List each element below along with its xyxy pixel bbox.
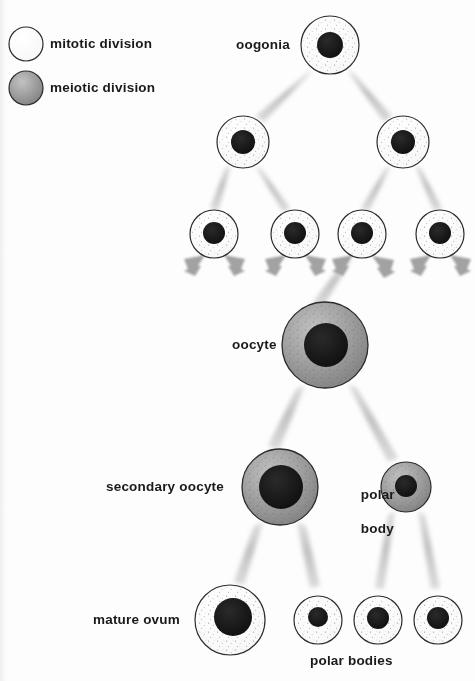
connector-2a-to-3a bbox=[210, 165, 231, 211]
arrow-3b-left bbox=[265, 255, 286, 276]
nucleus bbox=[391, 130, 415, 154]
connector-secondary-to-polarbody2 bbox=[297, 522, 320, 588]
cell-oogonia-3a bbox=[190, 210, 238, 258]
nucleus bbox=[429, 222, 451, 244]
arrow-3a-right bbox=[224, 255, 245, 276]
connector-oogonia-to-2a bbox=[256, 70, 313, 122]
label-polar-body-line2: body bbox=[361, 521, 394, 536]
nucleus bbox=[203, 222, 225, 244]
legend-label-mitotic: mitotic division bbox=[50, 36, 152, 53]
nucleus bbox=[259, 465, 303, 509]
nucleus bbox=[395, 475, 417, 497]
nucleus bbox=[308, 607, 328, 627]
connector-2b-to-3d bbox=[415, 165, 442, 211]
nucleus bbox=[284, 222, 306, 244]
legend-swatch-mitotic bbox=[9, 27, 43, 61]
nucleus bbox=[231, 130, 255, 154]
meiosis-arrow-group bbox=[184, 255, 471, 278]
nucleus bbox=[214, 598, 252, 636]
nucleus bbox=[304, 323, 348, 367]
cell-oogonia-3b bbox=[271, 210, 319, 258]
arrow-3c-right bbox=[372, 256, 395, 278]
nucleus bbox=[367, 607, 389, 629]
nucleus bbox=[427, 607, 449, 629]
label-polar-body-line1: polar bbox=[361, 487, 395, 502]
connector-oocyte-to-polar-body bbox=[348, 384, 398, 462]
arrow-3d-left bbox=[410, 255, 431, 276]
label-polar-bodies: polar bodies bbox=[310, 653, 393, 670]
nucleus bbox=[351, 222, 373, 244]
connector-secondary-to-ovum bbox=[234, 522, 263, 585]
connector-2b-to-3c bbox=[361, 165, 391, 211]
label-oogonia: oogonia bbox=[236, 37, 290, 54]
arrow-3a-left bbox=[184, 255, 205, 276]
cell-polar-body-3 bbox=[354, 596, 402, 644]
legend-swatch-meiotic bbox=[9, 71, 43, 105]
nucleus bbox=[317, 32, 343, 58]
connector-polarbody-to-polarbody4 bbox=[418, 511, 440, 589]
cell-secondary-oocyte bbox=[242, 449, 318, 525]
connector-2a-to-3b bbox=[255, 165, 290, 212]
arrow-3b-right bbox=[305, 255, 326, 276]
cell-oocyte bbox=[282, 302, 368, 388]
cell-polar-body-4 bbox=[414, 596, 462, 644]
arrow-3d-right bbox=[450, 255, 471, 276]
legend-label-meiotic: meiotic division bbox=[50, 80, 155, 97]
cell-oogonia-2a bbox=[217, 116, 269, 168]
label-polar-body: polar body bbox=[345, 470, 395, 554]
oogenesis-diagram: mitotic division meiotic division oogoni… bbox=[0, 0, 475, 681]
label-mature-ovum: mature ovum bbox=[93, 612, 180, 629]
label-secondary-oocyte: secondary oocyte bbox=[106, 479, 224, 496]
cell-oogonia-3c bbox=[338, 210, 386, 258]
connector-oocyte-to-secondary bbox=[268, 385, 305, 450]
label-oocyte: oocyte bbox=[232, 337, 277, 354]
cell-mature-ovum bbox=[195, 585, 265, 655]
cell-oogonia bbox=[301, 16, 359, 74]
cell-polar-body-2 bbox=[294, 596, 342, 644]
cell-oogonia-2b bbox=[377, 116, 429, 168]
connector-oogonia-to-2b bbox=[347, 70, 392, 122]
cell-oogonia-3d bbox=[416, 210, 464, 258]
